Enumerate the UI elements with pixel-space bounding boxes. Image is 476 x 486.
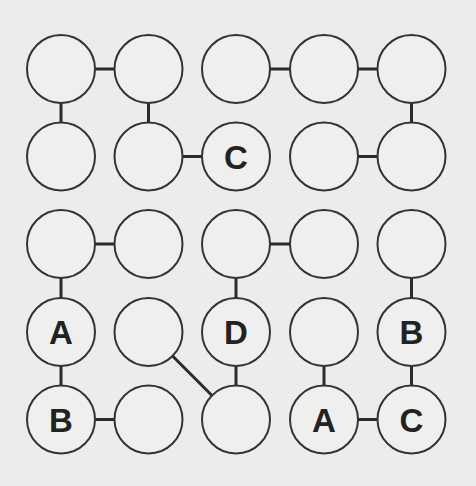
node-label: D bbox=[224, 314, 248, 351]
node-circle bbox=[115, 35, 183, 103]
node-r2c4 bbox=[378, 210, 446, 278]
node-circle bbox=[27, 123, 95, 191]
node-label: A bbox=[49, 314, 73, 351]
node-r1c3 bbox=[290, 123, 358, 191]
node-r1c2: C bbox=[202, 123, 270, 191]
node-r2c1 bbox=[115, 210, 183, 278]
node-r2c2 bbox=[202, 210, 270, 278]
puzzle-diagram: CADBBAC bbox=[0, 0, 476, 486]
node-circle bbox=[378, 123, 446, 191]
node-circle bbox=[202, 386, 270, 454]
node-label: B bbox=[400, 314, 424, 351]
node-circle bbox=[378, 35, 446, 103]
edge-r3c1-r4c2 bbox=[173, 356, 212, 395]
node-circle bbox=[115, 298, 183, 366]
node-label: C bbox=[400, 402, 424, 439]
node-circle bbox=[202, 35, 270, 103]
node-circle bbox=[115, 386, 183, 454]
node-r1c4 bbox=[378, 123, 446, 191]
node-circle bbox=[27, 210, 95, 278]
node-label: B bbox=[49, 402, 73, 439]
node-circle bbox=[115, 123, 183, 191]
node-r3c2: D bbox=[202, 298, 270, 366]
node-label: A bbox=[312, 402, 336, 439]
node-circle bbox=[115, 210, 183, 278]
node-circle bbox=[290, 35, 358, 103]
node-graph: CADBBAC bbox=[0, 0, 476, 486]
node-r0c2 bbox=[202, 35, 270, 103]
node-r3c4: B bbox=[378, 298, 446, 366]
node-r0c1 bbox=[115, 35, 183, 103]
node-r2c3 bbox=[290, 210, 358, 278]
node-r4c4: C bbox=[378, 386, 446, 454]
node-r1c1 bbox=[115, 123, 183, 191]
node-r4c3: A bbox=[290, 386, 358, 454]
node-circle bbox=[290, 298, 358, 366]
node-r4c0: B bbox=[27, 386, 95, 454]
node-label: C bbox=[224, 139, 248, 176]
node-r3c1 bbox=[115, 298, 183, 366]
node-r4c2 bbox=[202, 386, 270, 454]
node-r0c0 bbox=[27, 35, 95, 103]
node-r2c0 bbox=[27, 210, 95, 278]
node-circle bbox=[27, 35, 95, 103]
node-r1c0 bbox=[27, 123, 95, 191]
node-r3c3 bbox=[290, 298, 358, 366]
node-circle bbox=[290, 123, 358, 191]
node-circle bbox=[290, 210, 358, 278]
node-circle bbox=[378, 210, 446, 278]
node-r0c4 bbox=[378, 35, 446, 103]
node-r4c1 bbox=[115, 386, 183, 454]
node-r0c3 bbox=[290, 35, 358, 103]
node-circle bbox=[202, 210, 270, 278]
node-r3c0: A bbox=[27, 298, 95, 366]
nodes-layer: CADBBAC bbox=[27, 35, 446, 454]
